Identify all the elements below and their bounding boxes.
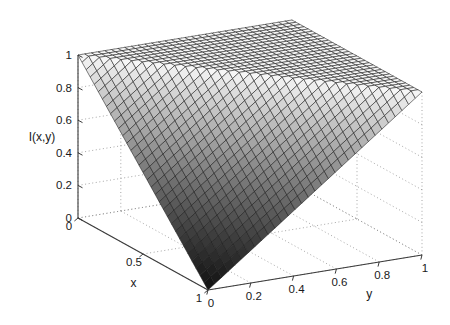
x-tick-label: 0.5 bbox=[126, 256, 142, 268]
z-tick-label: 1 bbox=[66, 49, 72, 61]
y-tick-label: 1 bbox=[422, 262, 428, 274]
y-tick-label: 0.2 bbox=[246, 290, 262, 302]
y-tick-label: 0.8 bbox=[374, 269, 390, 281]
z-tick-label: 0.8 bbox=[56, 82, 72, 94]
y-tick-label: 0.6 bbox=[331, 276, 347, 288]
z-axis-title: I(x,y) bbox=[29, 130, 56, 144]
y-axis-title: y bbox=[366, 287, 372, 301]
surface-plot-figure: 00.20.40.60.81I(x,y)00.51x00.20.40.60.81… bbox=[0, 0, 450, 325]
z-tick-label: 0.2 bbox=[56, 179, 72, 191]
x-tick-label: 0 bbox=[66, 220, 72, 232]
x-tick-label: 1 bbox=[196, 292, 202, 304]
y-tick-label: 0 bbox=[208, 297, 214, 309]
y-tick-label: 0.4 bbox=[289, 283, 306, 295]
z-tick-label: 0.6 bbox=[56, 114, 72, 126]
z-tick-label: 0.4 bbox=[56, 147, 73, 159]
x-axis-title: x bbox=[131, 276, 137, 290]
plot-canvas: 00.20.40.60.81I(x,y)00.51x00.20.40.60.81… bbox=[0, 0, 450, 325]
